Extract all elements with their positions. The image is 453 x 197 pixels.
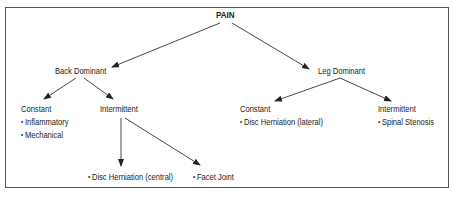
- item-spinal-stenosis: Spinal Stenosis: [378, 117, 434, 127]
- node-back-dominant: Back Dominant: [55, 66, 106, 76]
- node-leg-constant: Constant: [240, 104, 270, 114]
- node-back-intermittent: Intermittent: [100, 104, 138, 114]
- arrow-intermittent-to-facet: [125, 118, 200, 165]
- item-inflammatory: Inflammatory: [21, 117, 69, 127]
- item-facet-joint: Facet Joint: [193, 172, 234, 182]
- item-mechanical: Mechanical: [21, 130, 63, 140]
- item-disc-herniation-central: Disc Herniation (central): [88, 172, 173, 182]
- arrow-back-to-constant: [44, 78, 76, 99]
- arrow-pain-to-leg: [232, 23, 309, 69]
- connector-arrows: [0, 0, 453, 197]
- node-leg-intermittent: Intermittent: [378, 104, 416, 114]
- item-disc-herniation-lateral: Disc Herniation (lateral): [240, 117, 323, 127]
- node-leg-dominant: Leg Dominant: [318, 66, 365, 76]
- arrow-pain-to-back: [112, 23, 220, 67]
- arrow-back-to-intermittent: [84, 78, 113, 99]
- arrow-leg-to-intermittent: [340, 78, 391, 101]
- node-back-constant: Constant: [21, 104, 51, 114]
- root-node-pain: PAIN: [216, 9, 235, 20]
- arrow-leg-to-constant: [275, 78, 340, 101]
